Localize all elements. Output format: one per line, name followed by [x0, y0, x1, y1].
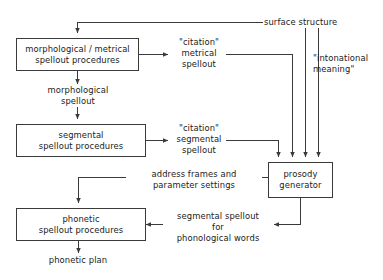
diagram-canvas: morphological / metrical spellout proced… — [0, 0, 383, 280]
label-citation-metrical-spellout: "citation" metrical spellout — [172, 37, 226, 70]
label-morphological-spellout: morphological spellout — [33, 85, 123, 107]
box-line: prosody — [283, 169, 317, 180]
box-prosody-generator[interactable]: prosody generator — [268, 162, 333, 198]
label-line: for — [163, 222, 273, 233]
box-line: generator — [279, 180, 321, 191]
box-segmental-spellout-procedures[interactable]: segmental spellout procedures — [16, 124, 146, 157]
label-line: "intonational — [313, 53, 383, 64]
edge-prosody-to-segmental-spellout-phonological — [274, 198, 301, 225]
label-address-frames-and-parameter-settings: address frames and parameter settings — [126, 169, 262, 191]
label-line: "citation" — [172, 123, 226, 134]
label-line: "citation" — [172, 37, 226, 48]
label-surface-structure: surface structure — [264, 17, 382, 28]
edge-surface-structure-to-morphological-box — [78, 23, 263, 34]
label-line: surface structure — [264, 17, 382, 28]
label-line: address frames and — [126, 169, 262, 180]
label-line: spellout — [33, 96, 123, 107]
label-line: phonological words — [163, 233, 273, 244]
label-line: morphological — [33, 85, 123, 96]
label-line: phonetic plan — [33, 255, 123, 266]
box-line: spellout procedures — [35, 55, 120, 66]
box-morphological-metrical-spellout-procedures[interactable]: morphological / metrical spellout proced… — [16, 38, 139, 71]
label-citation-segmental-spellout: "citation" segmental spellout — [172, 123, 226, 156]
box-line: morphological / metrical — [25, 44, 130, 55]
label-line: segmental — [172, 134, 226, 145]
label-segmental-spellout-for-phonological-words: segmental spellout for phonological word… — [163, 211, 273, 244]
label-line: spellout — [172, 145, 226, 156]
label-intonational-meaning: "intonational meaning" — [313, 53, 383, 75]
box-line: phonetic — [62, 214, 99, 225]
box-line: spellout procedures — [39, 141, 124, 152]
label-phonetic-plan: phonetic plan — [33, 255, 123, 266]
box-line: spellout procedures — [39, 225, 124, 236]
label-line: segmental spellout — [163, 211, 273, 222]
edge-citation-metrical-to-prosody — [226, 55, 293, 158]
label-line: metrical — [172, 48, 226, 59]
label-line: meaning" — [313, 64, 383, 75]
box-phonetic-spellout-procedures[interactable]: phonetic spellout procedures — [16, 208, 146, 241]
edge-citation-segmental-to-prosody — [226, 141, 279, 158]
label-line: spellout — [172, 59, 226, 70]
box-line: segmental — [58, 130, 103, 141]
label-line: parameter settings — [126, 180, 262, 191]
